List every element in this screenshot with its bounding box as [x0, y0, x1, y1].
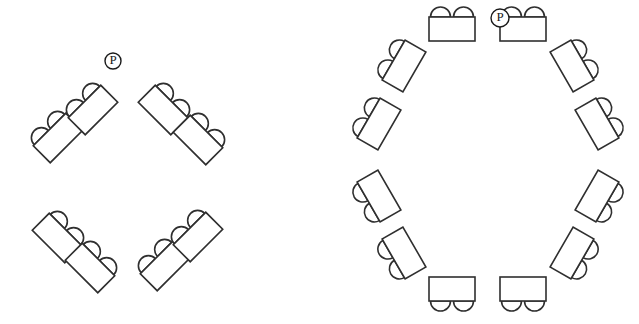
table-unit[interactable] [550, 227, 602, 284]
seating-layout-svg: P P [0, 0, 639, 324]
table-unit[interactable] [429, 7, 475, 41]
table-unit[interactable] [575, 170, 627, 227]
diagram-canvas: P P [0, 0, 639, 324]
table-unit[interactable] [373, 227, 425, 284]
table-unit[interactable] [550, 35, 602, 92]
chair-seat[interactable] [525, 7, 545, 17]
p-marker-label: P [496, 9, 503, 24]
chair-seat[interactable] [454, 7, 474, 17]
table-top[interactable] [500, 277, 546, 301]
table-top[interactable] [429, 277, 475, 301]
table-unit[interactable] [348, 93, 400, 150]
p-marker[interactable]: P [491, 9, 509, 27]
diagram-circle-layout: P [348, 7, 627, 311]
p-marker-label: P [109, 52, 116, 67]
table-top[interactable] [429, 17, 475, 41]
chair-seat[interactable] [525, 301, 545, 311]
table-unit[interactable] [373, 35, 425, 92]
table-unit[interactable] [348, 170, 400, 227]
table-unit[interactable] [500, 277, 546, 311]
chair-seat[interactable] [454, 301, 474, 311]
table-unit[interactable] [429, 277, 475, 311]
table-unit[interactable] [575, 93, 627, 150]
chair-seat[interactable] [431, 7, 451, 17]
chair-seat[interactable] [502, 301, 522, 311]
diagram-diamond-layout: P [26, 52, 230, 292]
table-group [26, 78, 230, 293]
table-group [348, 7, 627, 311]
chair-seat[interactable] [431, 301, 451, 311]
p-marker[interactable]: P [105, 52, 121, 69]
